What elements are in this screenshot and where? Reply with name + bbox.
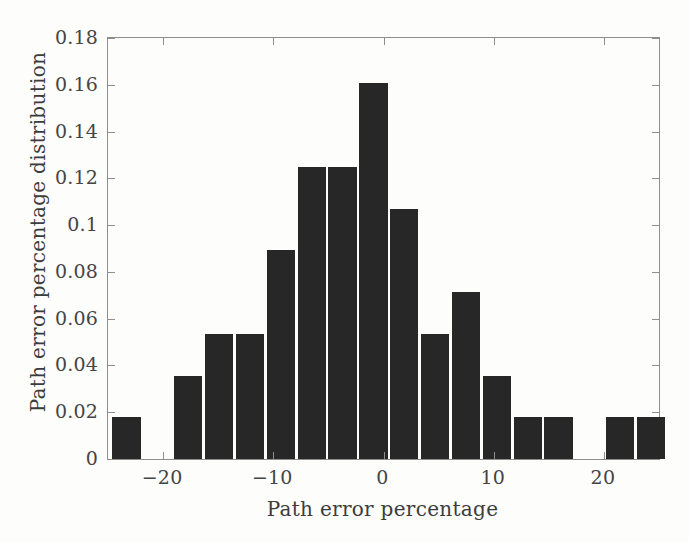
x-axis-tick-labels: −20−1001020 bbox=[107, 466, 658, 494]
y-axis-tick-right bbox=[652, 412, 659, 413]
y-axis-tick bbox=[108, 272, 115, 273]
bars-layer bbox=[108, 38, 659, 459]
y-axis-tick-right bbox=[652, 178, 659, 179]
histogram-figure: 00.020.040.060.080.10.120.140.160.18 −20… bbox=[0, 0, 689, 542]
histogram-bar bbox=[267, 250, 295, 459]
x-axis-tick-top bbox=[604, 38, 605, 45]
x-axis-tick bbox=[273, 452, 274, 459]
y-axis-tick-right bbox=[652, 225, 659, 226]
histogram-bar bbox=[359, 83, 387, 459]
y-axis-tick bbox=[108, 319, 115, 320]
x-axis-tick-label: −10 bbox=[252, 466, 293, 488]
y-axis-tick bbox=[108, 412, 115, 413]
y-axis-tick-label: 0.02 bbox=[55, 400, 98, 422]
y-axis-tick bbox=[108, 132, 115, 133]
y-axis-title: Path error percentage distribution bbox=[26, 17, 50, 447]
y-axis-tick-label: 0.06 bbox=[55, 307, 98, 329]
y-axis-tick-label: 0.08 bbox=[55, 260, 98, 282]
x-axis-tick bbox=[384, 452, 385, 459]
y-axis-tick bbox=[108, 85, 115, 86]
x-axis-tick-top bbox=[273, 38, 274, 45]
histogram-bar bbox=[514, 417, 542, 459]
x-axis-tick bbox=[604, 452, 605, 459]
histogram-bar bbox=[112, 417, 140, 459]
y-axis-tick-label: 0.12 bbox=[55, 166, 98, 188]
histogram-bar bbox=[328, 167, 356, 459]
y-axis-tick-label: 0.04 bbox=[55, 353, 98, 375]
x-axis-tick bbox=[494, 452, 495, 459]
histogram-bar bbox=[205, 334, 233, 459]
y-axis-tick-right bbox=[652, 272, 659, 273]
y-axis-tick bbox=[108, 38, 115, 39]
histogram-bar bbox=[452, 292, 480, 459]
y-axis-tick-label: 0.14 bbox=[55, 120, 98, 142]
y-axis-tick-right bbox=[652, 132, 659, 133]
y-axis-tick-label: 0.1 bbox=[67, 213, 98, 235]
x-axis-tick-label: −20 bbox=[142, 466, 183, 488]
x-axis-title: Path error percentage bbox=[107, 497, 658, 521]
histogram-bar bbox=[298, 167, 326, 459]
x-axis-tick-top bbox=[163, 38, 164, 45]
plot-area bbox=[107, 37, 660, 460]
histogram-bar bbox=[483, 376, 511, 459]
histogram-bar bbox=[544, 417, 572, 459]
histogram-bar bbox=[236, 334, 264, 459]
y-axis-tick bbox=[108, 225, 115, 226]
x-axis-tick-label: 20 bbox=[591, 466, 616, 488]
y-axis-tick-label: 0.16 bbox=[55, 73, 98, 95]
y-axis-tick bbox=[108, 459, 115, 460]
histogram-bar bbox=[421, 334, 449, 459]
y-axis-tick bbox=[108, 178, 115, 179]
x-axis-tick-label: 10 bbox=[480, 466, 505, 488]
histogram-bar bbox=[390, 209, 418, 459]
y-axis-tick-right bbox=[652, 85, 659, 86]
y-axis-tick-right bbox=[652, 38, 659, 39]
histogram-bar bbox=[606, 417, 634, 459]
x-axis-tick-top bbox=[494, 38, 495, 45]
y-axis-tick bbox=[108, 365, 115, 366]
y-axis-tick-right bbox=[652, 365, 659, 366]
x-axis-tick-top bbox=[384, 38, 385, 45]
y-axis-tick-right bbox=[652, 319, 659, 320]
y-axis-tick-label: 0.18 bbox=[55, 26, 98, 48]
y-axis-tick-label: 0 bbox=[86, 447, 98, 469]
x-axis-tick bbox=[163, 452, 164, 459]
y-axis-tick-right bbox=[652, 459, 659, 460]
histogram-bar bbox=[637, 417, 665, 459]
histogram-bar bbox=[174, 376, 202, 459]
x-axis-tick-label: 0 bbox=[376, 466, 388, 488]
